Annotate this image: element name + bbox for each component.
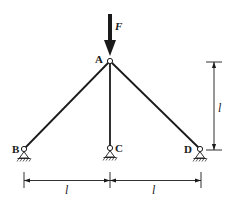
label-l-vertical: l [218, 101, 222, 115]
label-a: A [95, 53, 103, 65]
label-d: D [184, 143, 192, 155]
dimension-horizontal: l l [24, 172, 201, 197]
support-c: C [103, 142, 123, 161]
load-arrow-f: F [104, 14, 123, 56]
member-ad [110, 61, 200, 149]
member-ab [24, 61, 110, 149]
hinge-icon [107, 58, 112, 63]
label-f: F [114, 20, 123, 32]
arrow-shaft [108, 14, 112, 44]
label-l-right: l [152, 183, 156, 197]
pin-support-icon [196, 152, 205, 158]
label-b: B [12, 143, 20, 155]
arrow-down-icon [104, 40, 116, 56]
members [24, 61, 200, 149]
label-c: C [115, 142, 123, 154]
label-l-left: l [65, 183, 69, 197]
pin-support-icon [106, 151, 115, 157]
pin-support-icon [20, 152, 29, 158]
truss-diagram: F A B C [0, 0, 236, 201]
dimension-vertical: l [206, 62, 222, 150]
